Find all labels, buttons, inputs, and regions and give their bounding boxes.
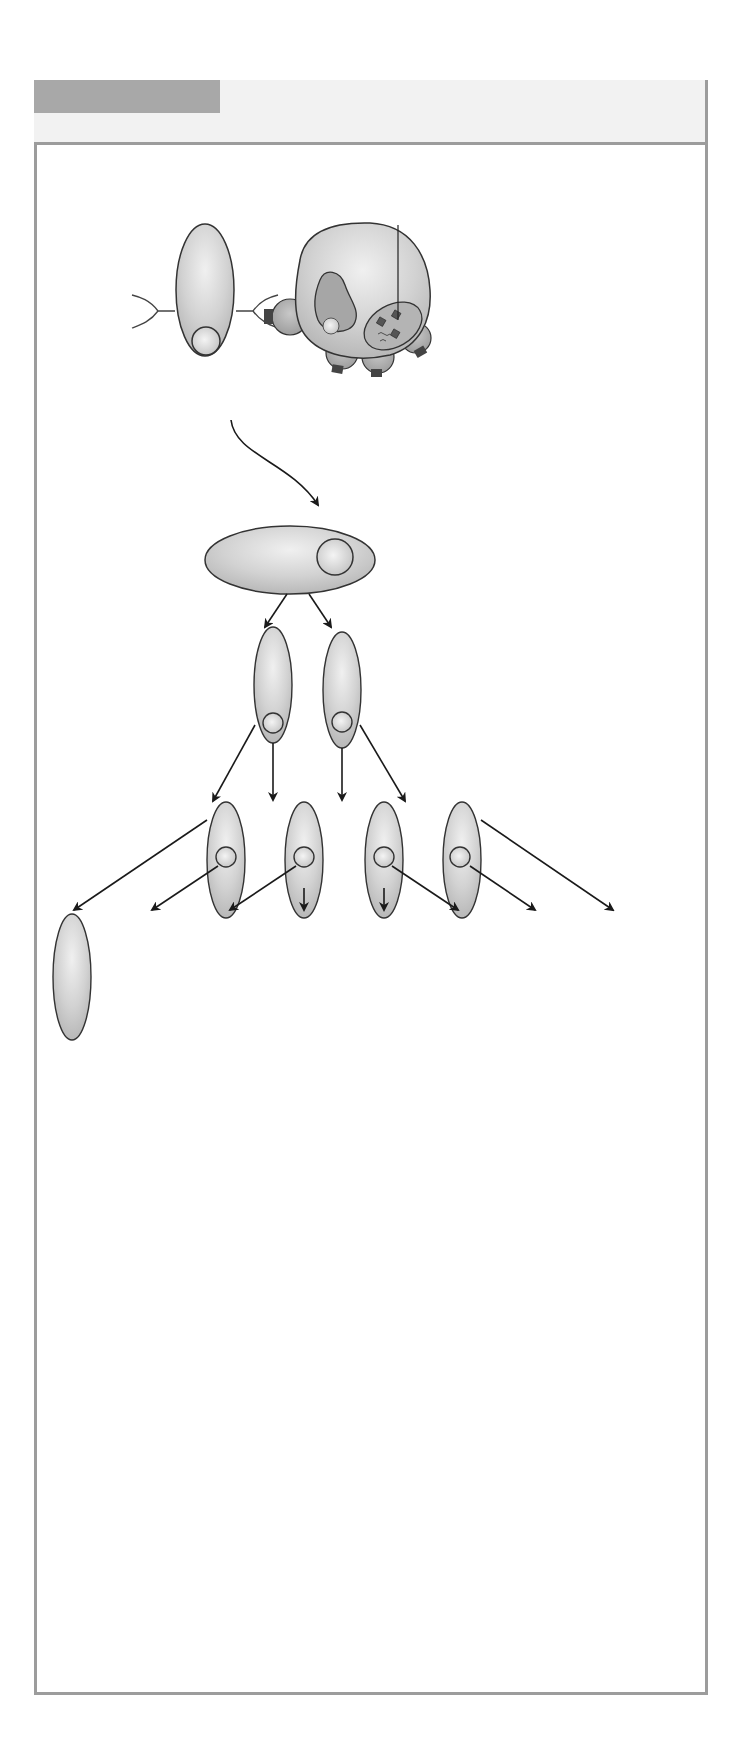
arrows-gen1 [265,594,331,627]
gen1-cells [254,627,361,748]
arrows-gen3 [74,820,613,910]
t-cell-immunity-diagram [0,0,729,1744]
gen3-cells [53,914,91,1040]
apc-cell [264,223,431,377]
arrows-gen2 [213,725,405,801]
th-cell-initial [132,224,278,356]
arrow-activation [231,420,318,505]
activated-th-cell [205,526,375,594]
gen2-cells [207,802,481,918]
